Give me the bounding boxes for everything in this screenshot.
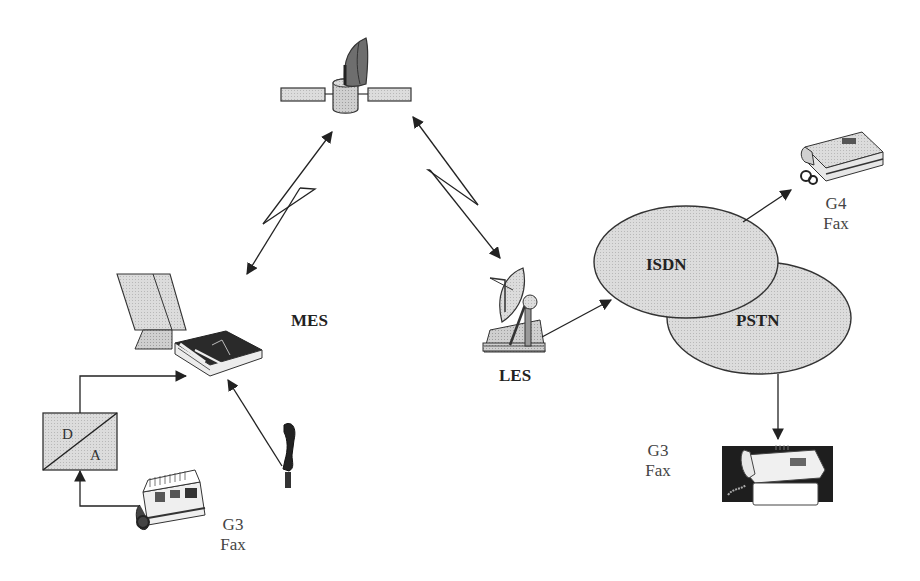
da-to-mes-arrow [80,376,186,413]
isdn-label: ISDN [646,255,687,275]
g3-fax-left-icon [136,470,205,530]
mes-label: MES [291,311,328,331]
da-a-label: A [90,447,101,463]
pstn-label: PSTN [736,311,779,331]
g3-fax-left-line1: G3 [218,515,248,535]
les-antenna-icon [483,268,545,352]
g3-fax-right-line2: Fax [643,461,673,481]
diagram-canvas: D A [0,0,920,581]
handset-to-mes-arrow [228,380,282,466]
g3-fax-right-line1: G3 [643,441,673,461]
g4-fax-line1: G4 [821,194,851,214]
g3-left-to-da-arrow [80,471,140,506]
da-converter-box: D A [43,413,117,470]
g3-fax-right-icon [722,445,833,505]
les-to-isdn-arrow [542,300,611,337]
g3-fax-left-label: G3 Fax [218,515,248,554]
isdn-to-g4-arrow [743,190,791,222]
g4-fax-line2: Fax [821,214,851,234]
satellite-les-link [413,117,500,258]
les-label: LES [499,366,531,386]
g4-fax-icon [801,132,883,184]
g3-fax-right-label: G3 Fax [643,441,673,480]
mes-terminal-icon [117,274,262,376]
g4-fax-label: G4 Fax [821,194,851,233]
handset-icon [283,423,295,488]
mes-satellite-link [247,132,332,274]
g3-fax-left-line2: Fax [218,535,248,555]
da-d-label: D [62,426,73,442]
satellite-icon [281,38,411,113]
